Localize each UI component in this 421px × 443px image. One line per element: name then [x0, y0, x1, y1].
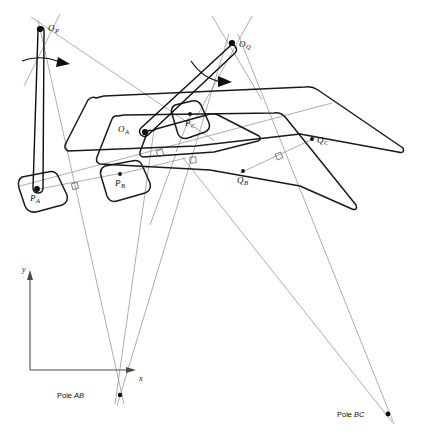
point-marker-o-p — [37, 26, 43, 32]
point-marker-o-a — [142, 129, 148, 135]
construction-lines-group — [20, 14, 394, 424]
label-p-a-base: P — [29, 193, 36, 203]
construction-line-oq-to-pole-bc — [238, 34, 394, 424]
label-q-b-sub: B — [244, 179, 248, 186]
construction-line-pa-pb-bisector — [20, 103, 332, 186]
construction-line-oq-cross-2 — [196, 16, 252, 118]
label-o-p-base: O — [48, 23, 55, 33]
label-p-c-base: P — [184, 118, 191, 128]
construction-line-oq-to-pole-ab — [117, 34, 229, 406]
point-marker-pole-ab — [118, 393, 122, 397]
construction-line-oq-cross — [212, 16, 262, 100]
label-p-c-sub: C — [191, 122, 196, 129]
rotation-arrow-omega-p-arc — [22, 58, 60, 62]
label-o-p: OP — [48, 23, 59, 34]
construction-line-center-to-pole-bc — [183, 158, 392, 422]
label-q-c: QC — [317, 135, 329, 146]
point-marker-p-b — [118, 172, 122, 176]
label-o-a-sub: A — [124, 128, 129, 135]
label-pole-bc-name: BC — [354, 410, 365, 419]
label-p-a-sub: A — [35, 197, 40, 204]
axis-y-arrowhead — [27, 270, 33, 280]
label-axis-y: y — [21, 265, 26, 274]
label-o-q-sub: Q — [246, 43, 251, 50]
point-marker-q-c — [310, 137, 314, 141]
point-marker-q-b — [241, 169, 245, 173]
label-p-c: PC — [184, 118, 196, 129]
rotation-arrows-group — [22, 57, 232, 87]
point-marker-pole-bc — [386, 412, 391, 417]
diagram-canvas: OP OQ OA PA PB PC QB QC — [0, 0, 421, 443]
construction-line-op-to-pole-ab — [38, 20, 124, 404]
label-o-q: OQ — [239, 39, 251, 50]
label-axis-x: x — [138, 374, 143, 383]
label-pole-ab-name: AB — [73, 391, 84, 400]
point-marker-o-q — [229, 40, 235, 46]
crank-link-op-pa — [33, 27, 44, 193]
label-p-a: PA — [29, 193, 40, 204]
kinematic-pole-diagram: OP OQ OA PA PB PC QB QC — [0, 0, 421, 443]
label-p-b-base: P — [114, 178, 121, 188]
label-o-a-base: O — [118, 124, 125, 134]
label-o-p-sub: P — [54, 27, 59, 34]
point-markers-group — [34, 26, 390, 417]
label-q-c-base: Q — [317, 135, 324, 145]
label-o-q-base: O — [239, 39, 246, 49]
point-marker-p-c — [188, 112, 192, 116]
label-p-b: PB — [114, 178, 125, 189]
label-p-b-sub: B — [121, 182, 125, 189]
point-marker-p-a — [34, 186, 40, 192]
construction-line-pa-pb — [34, 173, 122, 190]
label-pole-ab-prefix: Pole — [57, 391, 74, 400]
construction-line-oa-to-pole-ab — [115, 130, 154, 404]
label-pole-bc-prefix: Pole — [337, 410, 354, 419]
label-pole-ab: Pole AB — [57, 391, 84, 400]
label-pole-bc: Pole BC — [337, 410, 365, 419]
label-q-c-sub: C — [324, 139, 329, 146]
label-q-b-base: Q — [237, 175, 244, 185]
rotation-arrow-omega-q-head — [218, 76, 232, 87]
construction-line-mid-fan-a — [150, 154, 176, 225]
axis-x-arrowhead — [126, 367, 136, 373]
label-o-a: OA — [118, 124, 129, 135]
rotation-arrow-omega-p-head — [56, 57, 70, 67]
labels-group: OP OQ OA PA PB PC QB QC — [21, 23, 365, 419]
coordinate-axes-group — [27, 270, 136, 373]
body-wedge-upper-outline — [65, 87, 404, 153]
